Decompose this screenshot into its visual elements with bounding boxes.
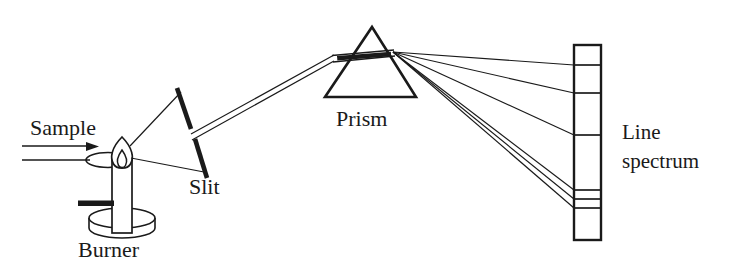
burner-group bbox=[78, 137, 155, 238]
slit-label: Slit bbox=[189, 174, 220, 199]
burner-label: Burner bbox=[78, 237, 140, 262]
slit-bar-lower bbox=[195, 139, 207, 178]
diagram-canvas: Sample Burner Slit Prism Line spectrum bbox=[0, 0, 742, 272]
collimated-beam-edge-bottom bbox=[192, 61, 334, 140]
sample-label: Sample bbox=[30, 115, 96, 140]
dispersed-ray-6 bbox=[393, 52, 574, 208]
dispersed-ray-3 bbox=[393, 52, 574, 135]
source-rays-group bbox=[130, 92, 204, 172]
line-spectrum-label-line2: spectrum bbox=[622, 149, 699, 173]
flame-spectroscopy-diagram: Sample Burner Slit Prism Line spectrum bbox=[0, 0, 742, 272]
source-ray-upper bbox=[130, 92, 181, 146]
line-spectrum-label-line1: Line bbox=[622, 120, 660, 144]
collimated-beam-group bbox=[191, 55, 334, 140]
burner-gas-inlet-arm bbox=[78, 201, 114, 207]
dispersed-rays-group bbox=[393, 52, 574, 208]
sample-arrow-head bbox=[86, 142, 99, 151]
prism-label: Prism bbox=[336, 106, 387, 131]
dispersed-ray-5 bbox=[393, 52, 574, 199]
collimated-beam-edge-top bbox=[191, 55, 334, 134]
slit-bar-upper bbox=[177, 88, 191, 129]
line-spectrum-screen-group bbox=[574, 45, 601, 240]
screen-plate bbox=[574, 45, 601, 240]
prism-group bbox=[325, 27, 416, 97]
source-ray-lower bbox=[131, 158, 204, 172]
